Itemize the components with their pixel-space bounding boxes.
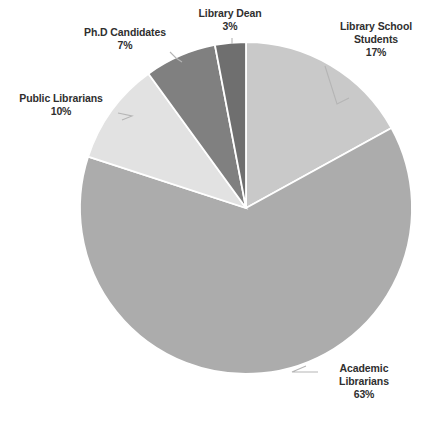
pie-label-public-librarians-percent: 10%	[6, 105, 116, 118]
pie-label-phd-candidates-percent: 7%	[62, 39, 188, 52]
pie-label-academic-librarians: Academic Librarians 63%	[316, 362, 412, 400]
pie-label-academic-librarians-line2: Librarians	[316, 375, 412, 388]
pie-label-library-dean: Library Dean 3%	[174, 7, 286, 33]
pie-label-library-school-students-line2: Students	[328, 33, 424, 46]
pie-label-library-school-students-percent: 17%	[328, 46, 424, 59]
pie-chart-graphic	[0, 0, 428, 424]
pie-label-library-dean-name: Library Dean	[174, 7, 286, 20]
pie-label-library-school-students-line1: Library School	[328, 20, 424, 33]
pie-label-academic-librarians-line1: Academic	[316, 362, 412, 375]
pie-label-phd-candidates-name: Ph.D Candidates	[62, 26, 188, 39]
pie-label-public-librarians-name: Public Librarians	[6, 92, 116, 105]
pie-label-library-school-students: Library School Students 17%	[328, 20, 424, 58]
pie-label-academic-librarians-percent: 63%	[316, 388, 412, 401]
pie-label-phd-candidates: Ph.D Candidates 7%	[62, 26, 188, 52]
pie-chart: Library Dean 3% Library School Students …	[0, 0, 428, 424]
pie-label-library-dean-percent: 3%	[174, 20, 286, 33]
pie-label-public-librarians: Public Librarians 10%	[6, 92, 116, 118]
